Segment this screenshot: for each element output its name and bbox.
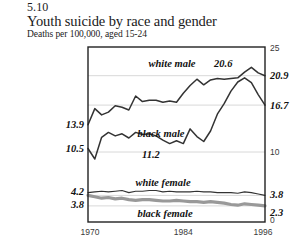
right-axis-label-white-female: 3.8 — [270, 189, 283, 200]
left-axis-label-black-female: 3.8 — [71, 199, 84, 210]
x-axis-tick-1970: 1970 — [81, 227, 100, 237]
annotation-black-male-mid: 11.2 — [142, 149, 160, 160]
right-axis-tick-0: 0 — [270, 215, 275, 225]
right-axis-label-white-male: 20.9 — [270, 70, 288, 81]
series-label-black-male: black male — [138, 128, 185, 139]
left-axis-label-black-male: 10.5 — [66, 143, 84, 154]
figure-container: 5.10 Youth suicide by race and gender De… — [0, 0, 303, 248]
left-axis-label-white-male: 13.9 — [66, 119, 84, 130]
series-label-white-female: white female — [135, 177, 190, 188]
series-label-white-male: white male — [149, 58, 196, 69]
right-axis-tick-25: 25 — [270, 43, 279, 53]
right-axis-label-black-male: 16.7 — [270, 100, 288, 111]
series-label-black-female: black female — [137, 208, 192, 219]
left-axis-label-white-female: 4.2 — [71, 186, 84, 197]
annotation-white-male-peak: 20.6 — [214, 58, 232, 69]
right-axis-tick-10: 10 — [270, 147, 279, 157]
x-axis-tick-1984: 1984 — [174, 227, 193, 237]
x-axis-tick-1996: 1996 — [254, 227, 273, 237]
